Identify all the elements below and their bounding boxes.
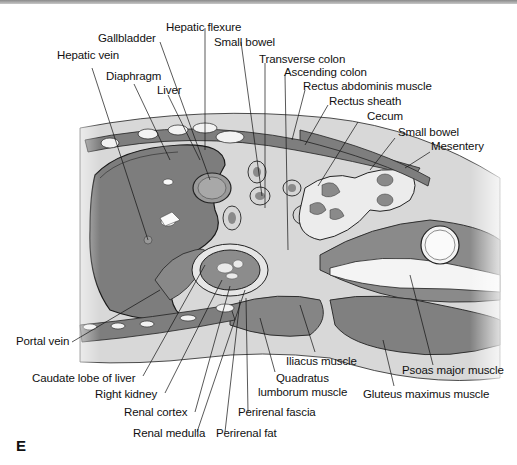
- label-psoas: Psoas major muscle: [402, 364, 504, 377]
- label-cecum: Cecum: [367, 110, 403, 123]
- label-iliacus: Iliacus muscle: [286, 355, 357, 368]
- panel-letter: E: [16, 437, 26, 454]
- label-quadratus-1: Quadratus: [276, 372, 329, 385]
- label-rectus-sheath: Rectus sheath: [329, 95, 401, 108]
- label-ascending-colon: Ascending colon: [284, 66, 367, 79]
- label-gluteus: Gluteus maximus muscle: [363, 388, 489, 401]
- label-gallbladder: Gallbladder: [98, 32, 156, 45]
- label-small-bowel-top: Small bowel: [214, 36, 275, 49]
- label-hepatic-flexure: Hepatic flexure: [166, 21, 241, 34]
- label-caudate-lobe: Caudate lobe of liver: [32, 372, 135, 385]
- label-small-bowel-right: Small bowel: [398, 126, 459, 139]
- label-right-kidney: Right kidney: [95, 388, 157, 401]
- label-rectus-abdominis: Rectus abdominis muscle: [303, 80, 432, 93]
- label-perirenal-fat: Perirenal fat: [216, 427, 277, 440]
- label-diaphragm: Diaphragm: [106, 70, 161, 83]
- label-hepatic-vein: Hepatic vein: [57, 49, 119, 62]
- label-renal-medulla: Renal medulla: [133, 427, 205, 440]
- label-liver: Liver: [157, 84, 181, 97]
- label-quadratus-2: lumborum muscle: [258, 386, 347, 399]
- label-mesentery: Mesentery: [431, 140, 484, 153]
- label-perirenal-fascia: Perirenal fascia: [238, 406, 316, 419]
- label-renal-cortex: Renal cortex: [124, 406, 187, 419]
- label-portal-vein: Portal vein: [16, 335, 69, 348]
- label-transverse-colon: Transverse colon: [259, 53, 345, 66]
